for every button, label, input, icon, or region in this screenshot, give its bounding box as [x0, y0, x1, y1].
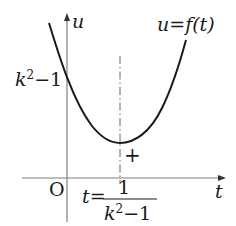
vertex-t-label: t= 1 k2−1: [82, 176, 157, 224]
u-intercept-label: k2−1: [15, 68, 62, 90]
function-graph-diagram: u t O u=f(t) k2−1 + t= 1 k2−1: [0, 0, 236, 226]
intercept-rest: −1: [34, 68, 62, 90]
intercept-exponent: 2: [27, 68, 35, 82]
svg-text:k2−1: k2−1: [104, 202, 151, 224]
denominator-base: k: [104, 202, 116, 224]
curve-u-f-t: [49, 23, 186, 143]
t-axis-label: t: [215, 180, 223, 202]
svg-text:k2−1: k2−1: [15, 68, 62, 90]
plus-marker: +: [124, 143, 141, 167]
fraction-numerator: 1: [118, 176, 130, 198]
svg-text:u=f(t): u=f(t): [157, 13, 215, 35]
denominator-rest: −1: [123, 202, 151, 224]
function-label-lhs: u: [157, 13, 169, 35]
denominator-exponent: 2: [116, 202, 124, 216]
u-axis-label: u: [72, 10, 84, 32]
origin-label: O: [49, 178, 65, 200]
intercept-base: k: [15, 68, 27, 90]
function-label: u=f(t): [157, 13, 215, 35]
function-label-rhs: f(t): [183, 13, 215, 35]
svg-text:t=: t=: [82, 185, 106, 207]
function-label-eq: =: [169, 13, 185, 35]
